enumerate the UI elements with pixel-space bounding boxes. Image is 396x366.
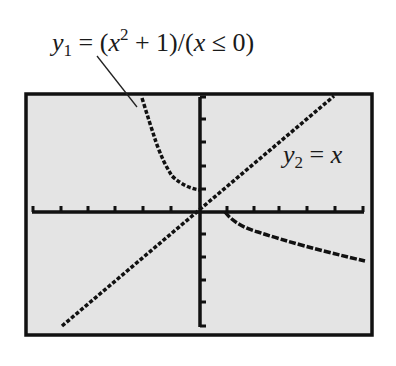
y2-x: x xyxy=(331,140,343,169)
y2-var: y xyxy=(283,140,295,169)
y2-equation-label: y2 = x xyxy=(283,142,342,171)
y2-eq: = xyxy=(303,140,331,169)
y2-sub: 2 xyxy=(295,153,304,172)
calculator-graph xyxy=(0,0,396,366)
